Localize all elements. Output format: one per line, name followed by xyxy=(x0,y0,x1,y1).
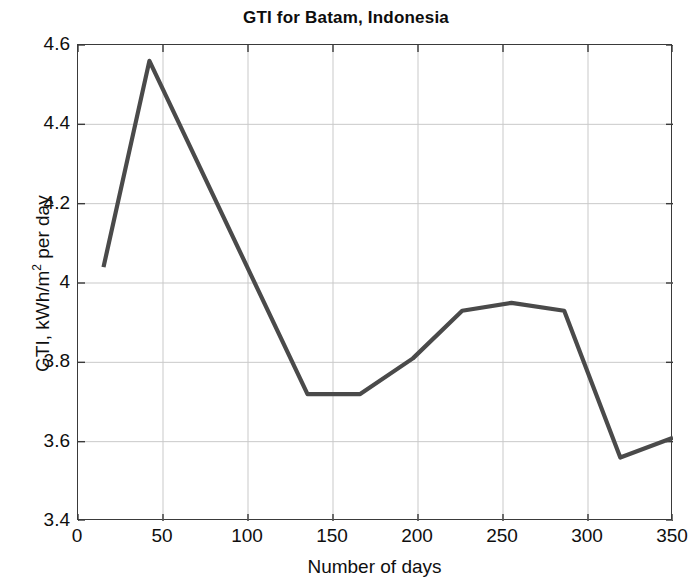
gti-line xyxy=(104,61,674,458)
chart-figure: GTI for Batam, Indonesia 3.43.63.844.24.… xyxy=(0,0,692,584)
x-axis-tick-labels: 050100150200250300350 xyxy=(77,525,672,553)
plot-area xyxy=(77,44,672,520)
y-axis-label-superscript: 2 xyxy=(30,264,44,271)
y-tick-label: 4.6 xyxy=(6,33,70,55)
x-tick-label: 0 xyxy=(37,525,117,547)
x-tick-label: 350 xyxy=(632,525,692,547)
x-tick-label: 150 xyxy=(292,525,372,547)
x-tick-label: 200 xyxy=(377,525,457,547)
y-axis-label-suffix: per day xyxy=(32,195,53,264)
y-axis-label: GTI, kWh/m2 per day xyxy=(30,134,53,434)
x-axis-label: Number of days xyxy=(77,556,672,578)
x-tick-label: 50 xyxy=(122,525,202,547)
y-axis-label-prefix: GTI, kWh/m xyxy=(32,271,53,372)
x-tick-label: 100 xyxy=(207,525,287,547)
chart-title: GTI for Batam, Indonesia xyxy=(0,8,692,28)
x-tick-label: 300 xyxy=(547,525,627,547)
y-tick-label: 4.4 xyxy=(6,112,70,134)
x-tick-label: 250 xyxy=(462,525,542,547)
data-series-layer xyxy=(78,45,673,521)
